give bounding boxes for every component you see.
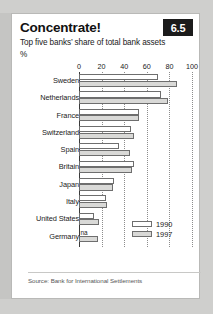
bar-netherlands-1997 <box>79 98 168 104</box>
bar-chart: 020406080100 SwedenNetherlandsFranceSwit… <box>20 62 193 258</box>
bar-japan-1990 <box>79 178 114 184</box>
legend-item-1997: 1997 <box>132 230 194 239</box>
bar-row: France <box>20 107 193 124</box>
bar-britain-1990 <box>79 161 134 167</box>
page-gutter <box>0 13 11 299</box>
bar-sweden-1997 <box>79 81 177 87</box>
axis-unit-label: % <box>20 50 193 59</box>
x-tick-60: 60 <box>143 62 151 71</box>
bar-sweden-1990 <box>79 74 158 80</box>
legend-label-1990: 1990 <box>156 220 172 229</box>
na-label-germany: na <box>81 229 88 236</box>
category-label-spain: Spain <box>61 145 79 154</box>
bar-united-states-1990 <box>79 213 94 219</box>
legend-swatch-1997 <box>132 231 152 237</box>
category-label-netherlands: Netherlands <box>40 93 79 102</box>
category-label-sweden: Sweden <box>53 76 79 85</box>
chart-card-inner: 6.5 Concentrate! Top five banks’ share o… <box>20 20 193 294</box>
bar-spain-1997 <box>79 150 130 156</box>
category-label-switzerland: Switzerland <box>42 128 79 137</box>
bar-germany-1997 <box>79 236 98 242</box>
chart-subtitle: Top five banks’ share of total bank asse… <box>20 38 193 48</box>
legend-swatch-1990 <box>132 221 152 227</box>
x-tick-20: 20 <box>98 62 106 71</box>
category-label-united-states: United States <box>36 214 79 223</box>
bar-row: Switzerland <box>20 124 193 141</box>
x-tick-0: 0 <box>77 62 81 71</box>
bar-france-1990 <box>79 109 139 115</box>
source-divider <box>28 272 201 273</box>
bar-row: Britain <box>20 158 193 175</box>
legend-item-1990: 1990 <box>132 220 194 229</box>
bar-switzerland-1997 <box>79 133 134 139</box>
x-tick-80: 80 <box>165 62 173 71</box>
bar-row: Sweden <box>20 72 193 89</box>
bar-switzerland-1990 <box>79 126 131 132</box>
figure-number-badge: 6.5 <box>163 19 193 36</box>
bar-row: Japan <box>20 176 193 193</box>
chart-legend: 19901997 <box>132 220 194 240</box>
category-label-italy: Italy <box>66 197 79 206</box>
category-label-britain: Britain <box>59 162 79 171</box>
legend-label-1997: 1997 <box>156 230 172 239</box>
bar-japan-1997 <box>79 184 113 190</box>
bar-row: Italy <box>20 193 193 210</box>
bar-britain-1997 <box>79 167 132 173</box>
chart-card: 6.5 Concentrate! Top five banks’ share o… <box>11 13 200 299</box>
bar-spain-1990 <box>79 143 119 149</box>
x-tick-40: 40 <box>120 62 128 71</box>
category-label-japan: Japan <box>59 180 79 189</box>
category-label-germany: Germany <box>49 232 79 241</box>
category-label-france: France <box>57 111 79 120</box>
bar-france-1997 <box>79 115 139 121</box>
source-note: Source: Bank for International Settlemen… <box>28 277 142 284</box>
bar-netherlands-1990 <box>79 91 161 97</box>
bar-italy-1997 <box>79 202 107 208</box>
page-root: 6.5 Concentrate! Top five banks’ share o… <box>0 0 213 314</box>
bar-row: Spain <box>20 141 193 158</box>
bar-italy-1990 <box>79 195 106 201</box>
x-axis-tick-labels: 020406080100 <box>20 62 193 72</box>
plot-area: SwedenNetherlandsFranceSwitzerlandSpainB… <box>20 72 193 258</box>
bar-row: Netherlands <box>20 89 193 106</box>
bar-united-states-1997 <box>79 219 99 225</box>
x-tick-100: 100 <box>186 62 198 71</box>
